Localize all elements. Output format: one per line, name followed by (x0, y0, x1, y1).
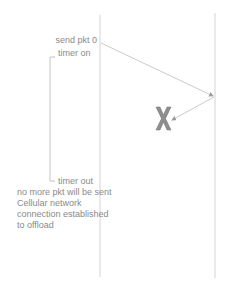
timer-bracket (50, 57, 55, 181)
cellular-network-label: Cellular network (17, 198, 82, 209)
packet-loss-x-icon (156, 107, 171, 130)
timer-out-label: timer out (58, 176, 93, 187)
connection-established-label: connection established (17, 209, 109, 220)
lost-reply-arrow (172, 97, 214, 120)
send-pkt-label: send pkt 0 (55, 35, 97, 46)
sequence-diagram (0, 0, 230, 290)
no-more-pkt-label: no more pkt will be sent (17, 187, 112, 198)
to-offload-label: to offload (17, 220, 54, 231)
send-packet-arrow (101, 43, 213, 96)
timer-on-label: timer on (58, 48, 91, 59)
